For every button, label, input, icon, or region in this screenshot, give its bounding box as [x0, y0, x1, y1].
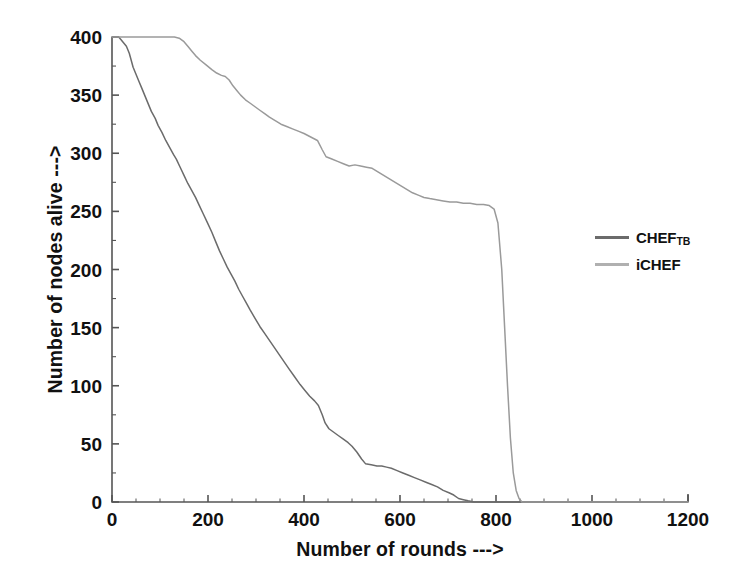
x-tick-label: 1200: [648, 510, 728, 529]
y-tick-label: 50: [32, 435, 102, 454]
legend-swatch-ichef: [595, 263, 629, 266]
figure-canvas: Number of nodes alive ---> Number of rou…: [0, 0, 737, 581]
plot-area: [0, 0, 737, 581]
y-tick-label: 100: [32, 377, 102, 396]
legend: CHEFTB iCHEF: [595, 224, 690, 278]
x-tick-label: 600: [360, 510, 440, 529]
x-tick-label: 800: [456, 510, 536, 529]
x-tick-label: 0: [72, 510, 152, 529]
x-tick-label: 1000: [552, 510, 632, 529]
legend-item-ichef[interactable]: iCHEF: [595, 251, 690, 278]
legend-swatch-cheftb: [595, 236, 629, 239]
legend-item-cheftb[interactable]: CHEFTB: [595, 224, 690, 251]
y-tick-label: 350: [32, 86, 102, 105]
y-tick-label: 200: [32, 261, 102, 280]
legend-label-ichef: iCHEF: [636, 256, 681, 273]
x-tick-label: 400: [264, 510, 344, 529]
y-tick-label: 400: [32, 28, 102, 47]
y-tick-label: 300: [32, 144, 102, 163]
y-tick-label: 150: [32, 319, 102, 338]
y-tick-label: 250: [32, 202, 102, 221]
x-tick-label: 200: [168, 510, 248, 529]
legend-label-cheftb: CHEFTB: [636, 229, 690, 246]
